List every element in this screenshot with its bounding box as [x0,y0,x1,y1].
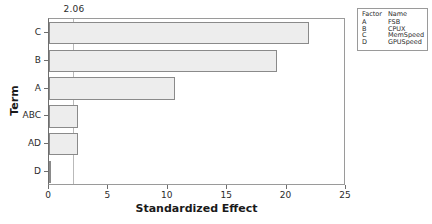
legend-cell-factor: D [362,39,388,46]
bar-d [49,161,51,183]
bar-b [49,50,277,72]
bar-c [49,22,309,44]
legend-body: AFSBBCPUXCMemSpeedDGPUSpeed [362,19,430,46]
bar-abc [49,105,78,127]
x-tick-label-20: 20 [280,190,291,200]
x-tick-mark [286,185,287,189]
plot-area [48,18,345,185]
legend-panel: Factor Name AFSBBCPUXCMemSpeedDGPUSpeed [357,8,428,51]
y-tick-label-d: D [34,166,41,176]
x-tick-mark [226,185,227,189]
x-tick-mark [48,185,49,189]
y-tick-label-c: C [35,27,41,37]
bar-ad [49,133,78,155]
x-tick-label-0: 0 [45,190,51,200]
x-tick-label-10: 10 [161,190,172,200]
legend-row: DGPUSpeed [362,39,430,46]
y-tick-label-b: B [35,55,41,65]
y-axis-title: Term [8,78,21,122]
x-tick-mark [107,185,108,189]
x-tick-mark [345,185,346,189]
pareto-chart-figure: Term 2.06 CBAABCADD 0510152025 Standardi… [0,0,432,224]
reference-line-label: 2.06 [63,4,84,14]
x-tick-label-5: 5 [105,190,111,200]
legend-table: Factor Name AFSBBCPUXCMemSpeedDGPUSpeed [362,11,430,46]
y-tick-label-ad: AD [28,138,41,148]
y-tick-label-a: A [35,83,41,93]
bar-a [49,77,175,99]
legend-cell-name: GPUSpeed [388,39,430,46]
x-tick-label-25: 25 [339,190,350,200]
x-axis-title: Standardized Effect [48,202,345,215]
x-tick-label-15: 15 [220,190,231,200]
x-tick-mark [167,185,168,189]
y-tick-label-abc: ABC [23,110,41,120]
